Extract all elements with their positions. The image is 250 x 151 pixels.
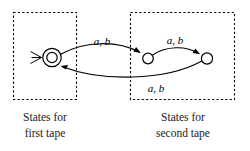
edge-label-q1-q2: a, b	[167, 34, 184, 46]
caption-second-tape-line2: second tape	[156, 127, 210, 140]
caption-first-tape-line2: first tape	[25, 127, 66, 140]
transition-q1-q2	[152, 48, 200, 56]
state-q2	[201, 53, 212, 64]
start-arrow-icon	[31, 52, 42, 64]
caption-first-tape-line1: States for	[23, 111, 67, 123]
transition-q2-q0	[61, 61, 202, 77]
edge-label-q0-q1: a, b	[94, 35, 111, 47]
caption-second-tape-line1: States for	[161, 111, 205, 123]
edge-label-q2-q0: a, b	[148, 82, 165, 94]
diagram-canvas: a, b a, b a, b States for first tape Sta…	[0, 0, 250, 151]
state-q1	[143, 53, 154, 64]
state-q0	[43, 48, 61, 66]
automaton-figure: a, b a, b a, b States for first tape Sta…	[0, 0, 250, 151]
